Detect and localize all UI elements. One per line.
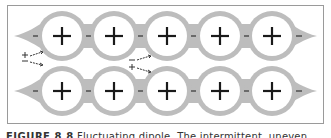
left-dipole-annotation xyxy=(22,51,43,66)
top-molecule xyxy=(14,11,317,61)
figure-caption: FIGURE 8.8 Fluctuating dipole. The inter… xyxy=(6,131,307,138)
bottom-molecule xyxy=(14,66,317,116)
middle-dipole-annotation xyxy=(129,55,151,73)
caption-label: FIGURE 8.8 xyxy=(6,131,74,138)
fluctuating-dipole-diagram xyxy=(0,0,331,138)
caption-text: Fluctuating dipole. The intermittent, un… xyxy=(74,131,308,138)
